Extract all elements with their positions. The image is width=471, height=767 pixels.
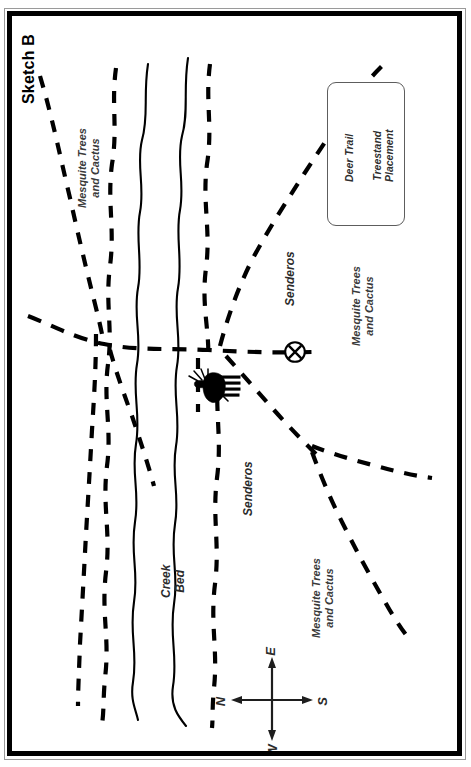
legend-item-deer-trail-label: Deer Trail <box>344 134 356 182</box>
deer-silhouette-icon <box>189 369 240 403</box>
map-label-creek-bed: Creek Bed <box>160 565 188 598</box>
compass-label-north: N <box>213 697 228 706</box>
compass-label-west: W <box>265 744 280 751</box>
map-label-mesquite-northwest: Mesquite Trees and Cactus <box>76 128 101 208</box>
deer-trail-creek-west <box>108 68 116 364</box>
legend-label-line-2: Placement <box>384 129 396 182</box>
map-label-senderos-upper: Senderos <box>284 251 298 306</box>
deer-trail-creek-east-south <box>212 376 219 728</box>
compass-rose <box>231 657 313 741</box>
map-label-senderos-lower: Senderos <box>242 461 256 516</box>
map-label-line-2: and Cactus <box>89 128 102 208</box>
deer-trail-southeast-upper-branch <box>312 446 432 478</box>
deer-trail-creek-west-south <box>102 364 109 724</box>
map-label-mesquite-southeast: Mesquite Trees and Cactus <box>310 558 335 638</box>
sketch-page: Sketch B <box>0 0 471 767</box>
creek-bank-east <box>172 58 188 726</box>
legend-label-line-1: Treestand <box>372 129 384 182</box>
deer-trail-northwest-lower <box>78 334 96 706</box>
map-label-line-1: Mesquite Trees <box>76 128 89 208</box>
map-label-line-1: Mesquite Trees <box>350 266 363 346</box>
deer-trail-main-horizontal <box>28 316 312 352</box>
creek-bank-west <box>132 64 148 720</box>
map-label-line-2: and Cactus <box>363 266 376 346</box>
map-label-line-2: and Cactus <box>323 558 336 638</box>
deer-trail-northwest-diagonal <box>40 76 104 344</box>
compass-label-east: E <box>263 647 278 656</box>
treestand-placement-marker[interactable] <box>285 342 305 362</box>
deer-trail-southeast <box>226 356 316 454</box>
compass-label-south: S <box>315 697 330 706</box>
deer-trail-branch-south <box>110 350 154 486</box>
legend-item-treestand-label: Treestand Placement <box>372 129 396 182</box>
map-sheet: Sketch B <box>12 16 457 751</box>
map-label-line-2: Bed <box>174 565 188 598</box>
map-label-line-1: Creek <box>160 565 174 598</box>
map-label-mesquite-east: Mesquite Trees and Cactus <box>350 266 375 346</box>
creek-bed-banks <box>132 58 188 726</box>
deer-trail-creek-east <box>204 64 210 360</box>
map-label-line-1: Mesquite Trees <box>310 558 323 638</box>
